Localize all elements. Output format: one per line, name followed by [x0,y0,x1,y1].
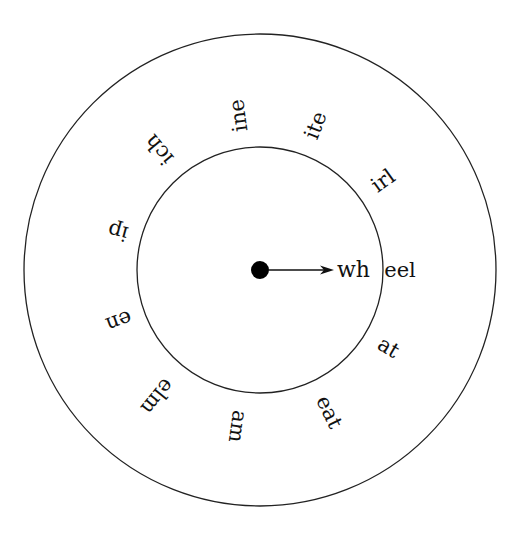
outer-word-ite: ite [299,108,331,142]
outer-word-am: am [224,409,252,445]
outer-word-elm: elm [136,374,179,420]
hub-dot [251,261,269,279]
outer-word-ine: ine [224,98,252,134]
inner-wheel-text: wh [337,257,370,282]
outer-word-irl: irl [366,164,399,197]
outer-word-eel: eel [384,258,416,282]
outer-word-ip: ip [105,218,131,246]
outer-word-at: at [373,332,404,364]
word-wheel-diagram: wh eelateatamelmenipichineiteirl [0,0,511,538]
outer-word-en: en [103,306,136,337]
outer-word-ich: ich [140,130,179,170]
outer-word-eat: eat [311,392,347,433]
